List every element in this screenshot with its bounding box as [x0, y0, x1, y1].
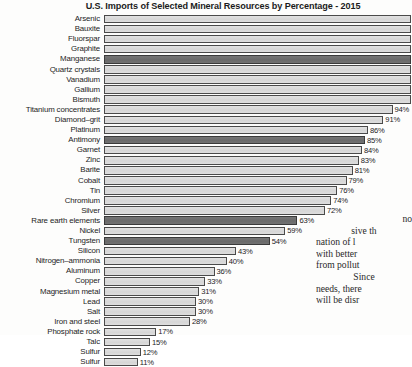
bar-highlighted: [104, 55, 411, 64]
bar-category-label: Rare earth elements: [0, 216, 104, 226]
bar-row: Zinc83%: [0, 155, 412, 165]
bar: [104, 65, 411, 74]
bar-category-label: Graphite: [0, 44, 104, 54]
bar-category-label: Quartz crystals: [0, 65, 104, 75]
bar-value-label: 85%: [367, 136, 382, 145]
bar-value-label: 43%: [238, 247, 253, 256]
bar: [104, 328, 156, 337]
bar-row: Manganese: [0, 54, 412, 64]
bar-row: Quartz crystals: [0, 64, 412, 74]
bar: [104, 267, 215, 276]
bar-track: 76%: [104, 186, 412, 196]
body-text-line: sive th: [316, 225, 412, 237]
bar-category-label: Tin: [0, 186, 104, 196]
bar-category-label: Cobalt: [0, 176, 104, 186]
bar: [104, 227, 285, 236]
bar-row: Graphite: [0, 44, 412, 54]
bar-highlighted: [104, 216, 297, 225]
body-text-line: will be disr: [316, 294, 412, 306]
bar-category-label: Salt: [0, 307, 104, 317]
bar-row: Titanium concentrates94%: [0, 105, 412, 115]
bar-track: [104, 75, 412, 85]
bar-value-label: 31%: [201, 287, 216, 296]
bar-value-label: 54%: [272, 237, 287, 246]
bar-category-label: Manganese: [0, 54, 104, 64]
bar: [104, 186, 337, 195]
bar-row: Cobalt79%: [0, 176, 412, 186]
bar: [104, 146, 362, 155]
bar-category-label: Sulfur: [0, 347, 104, 357]
bar: [104, 277, 205, 286]
bar-category-label: Silicon: [0, 246, 104, 256]
bar-value-label: 12%: [143, 348, 158, 357]
body-text-line: nation of l: [316, 236, 412, 248]
bar-category-label: Gallium: [0, 85, 104, 95]
bar-value-label: 28%: [192, 317, 207, 326]
bar: [104, 287, 199, 296]
bar-category-label: Titanium concentrates: [0, 105, 104, 115]
bar-category-label: Platinum: [0, 125, 104, 135]
bar: [104, 257, 227, 266]
bar-row: Sulfur12%: [0, 347, 412, 357]
bar-value-label: 17%: [158, 327, 173, 336]
bar-category-label: Sulfur: [0, 357, 104, 367]
bar: [104, 176, 347, 185]
bar-value-label: 40%: [229, 257, 244, 266]
bar: [104, 297, 196, 306]
bar-track: [104, 85, 412, 95]
bar-value-label: 30%: [198, 297, 213, 306]
bar-row: Bismuth: [0, 95, 412, 105]
bar-row: Antimony85%: [0, 135, 412, 145]
bar-category-label: Tungsten: [0, 236, 104, 246]
bar-category-label: Chromium: [0, 196, 104, 206]
bar: [104, 85, 411, 94]
bar-row: Diamond–grit91%: [0, 115, 412, 125]
bar: [104, 25, 411, 34]
bar-category-label: Aluminum: [0, 266, 104, 276]
bar-category-label: Garnet: [0, 145, 104, 155]
bar-highlighted: [104, 136, 365, 145]
bar-category-label: Silver: [0, 206, 104, 216]
bar-category-label: Lead: [0, 297, 104, 307]
bar-track: [104, 64, 412, 74]
bar-track: 91%: [104, 115, 412, 125]
bar-track: [104, 34, 412, 44]
bar-row: Bauxite: [0, 24, 412, 34]
bar: [104, 105, 393, 114]
bar-track: [104, 54, 412, 64]
bar-category-label: Antimony: [0, 135, 104, 145]
bar: [104, 45, 411, 54]
bar-category-label: Nitrogen–ammonia: [0, 256, 104, 266]
bar: [104, 116, 383, 125]
bar-track: 74%: [104, 196, 412, 206]
bar-value-label: 84%: [364, 146, 379, 155]
bar-track: 83%: [104, 155, 412, 165]
bar-value-label: 91%: [385, 115, 400, 124]
bar: [104, 15, 411, 24]
bar: [104, 126, 368, 135]
bar-category-label: Arsenic: [0, 14, 104, 24]
bar: [104, 348, 141, 357]
bar-value-label: 59%: [287, 226, 302, 235]
bar-track: 94%: [104, 105, 412, 115]
bar-value-label: 86%: [370, 126, 385, 135]
bar-category-label: Magnesium metal: [0, 287, 104, 297]
bar-category-label: Barite: [0, 165, 104, 175]
bar-category-label: Zinc: [0, 155, 104, 165]
bar-value-label: 94%: [395, 105, 410, 114]
bar-category-label: Vanadium: [0, 75, 104, 85]
bar-value-label: 79%: [349, 176, 364, 185]
book-body-text-column: no sive th nation of l with better from …: [316, 213, 412, 335]
bar-track: 86%: [104, 125, 412, 135]
bar-row: Platinum86%: [0, 125, 412, 135]
bar-category-label: Nickel: [0, 226, 104, 236]
bar: [104, 166, 353, 175]
bar-row: Vanadium: [0, 75, 412, 85]
bar-category-label: Iron and steel: [0, 317, 104, 327]
bar-value-label: 30%: [198, 307, 213, 316]
bar-value-label: 15%: [152, 338, 167, 347]
bar-row: Chromium74%: [0, 196, 412, 206]
bar-track: [104, 95, 412, 105]
bar: [104, 196, 331, 205]
bar-category-label: Fluorspar: [0, 34, 104, 44]
